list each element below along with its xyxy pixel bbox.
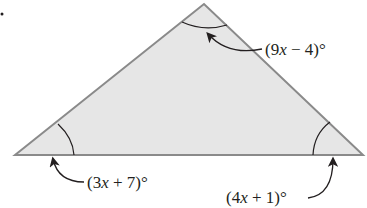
left-angle-label: (3x + 7)°: [87, 173, 148, 192]
bullet-dot: [1, 13, 4, 16]
triangle-diagram: (9x − 4)° (3x + 7)° (4x + 1)°: [0, 0, 367, 208]
right-angle-label: (4x + 1)°: [226, 188, 287, 207]
right-arrow-icon: [308, 159, 333, 198]
triangle-shape: [15, 4, 363, 155]
left-arrow-icon: [53, 159, 84, 182]
apex-angle-label: (9x − 4)°: [265, 40, 326, 59]
